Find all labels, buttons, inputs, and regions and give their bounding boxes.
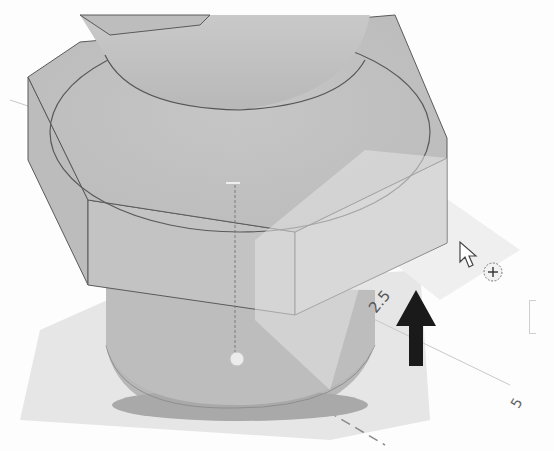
partial-ui-bracket (529, 300, 536, 334)
model-scene[interactable] (0, 0, 554, 451)
cad-viewport[interactable]: 2.5 5 (0, 0, 554, 451)
cursor-move-icon (458, 240, 508, 290)
push-pull-arrow-icon[interactable] (395, 290, 437, 370)
